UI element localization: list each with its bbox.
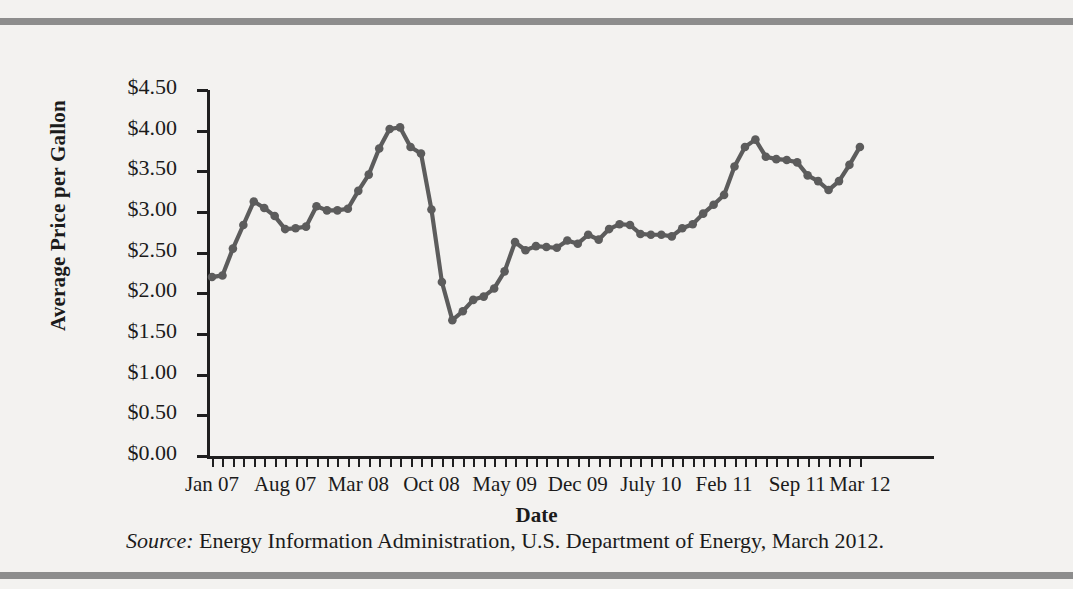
data-point-marker [312,202,321,211]
y-axis-tick-label: $0.00 [57,440,177,466]
x-axis-tick [400,456,402,467]
data-point-marker [427,205,436,214]
data-point-marker [218,271,227,280]
x-axis-tick [682,456,684,467]
chart-figure: Average Price per Gallon $0.00$0.50$1.00… [0,28,1073,528]
data-point-marker [521,246,530,255]
x-axis-tick [557,456,559,467]
x-axis-tick [588,456,590,467]
y-axis-tick-label: $2.00 [57,277,177,303]
data-point-marker [302,222,311,231]
data-point-marker [856,143,865,152]
x-axis-tick [285,456,287,467]
x-axis-tick [317,456,319,467]
data-point-marker [459,307,468,316]
x-axis-tick-label: Mar 08 [328,472,389,497]
x-axis-tick-label: Oct 08 [403,472,460,497]
source-label: Source: [126,528,194,553]
data-point-marker [668,232,677,241]
x-axis-tick [714,456,716,467]
x-axis-tick [358,456,360,467]
x-axis-tick [829,456,831,467]
data-point-marker [333,206,342,215]
data-point-marker [615,220,624,229]
data-point-marker [814,177,823,186]
x-axis-tick [724,456,726,467]
x-axis-tick [275,456,277,467]
x-axis-tick [264,456,266,467]
figure-page: Average Price per Gallon $0.00$0.50$1.00… [0,0,1073,589]
x-axis-tick-label: July 10 [620,472,681,497]
data-point-marker [636,230,645,239]
x-axis-tick [755,456,757,467]
data-point-marker [291,224,300,233]
data-point-marker [626,221,635,230]
data-point-marker [824,186,833,195]
x-axis-tick-label: May 09 [472,472,537,497]
y-axis-tick [197,89,208,92]
data-point-marker [417,149,426,158]
y-axis-tick-label: $3.50 [57,155,177,181]
data-point-marker [364,170,373,179]
data-point-marker [229,244,238,253]
x-axis-tick [745,456,747,467]
x-axis-tick [369,456,371,467]
x-axis-tick [515,456,517,467]
x-axis-tick [776,456,778,467]
y-axis-tick [197,211,208,214]
y-axis-tick-label: $4.00 [57,115,177,141]
data-point-marker [385,125,394,134]
x-axis-tick [849,456,851,467]
data-point-marker [699,209,708,218]
x-axis-tick [609,456,611,467]
x-axis-tick [567,456,569,467]
x-axis-tick [651,456,653,467]
x-axis-tick [494,456,496,467]
y-axis-tick-label: $1.00 [57,359,177,385]
data-point-marker [281,225,290,234]
x-axis-tick [431,456,433,467]
data-point-marker [647,230,656,239]
x-axis-tick [473,456,475,467]
data-point-marker [542,243,551,252]
data-point-marker [323,206,332,215]
x-axis-tick [640,456,642,467]
bottom-divider-rule [0,572,1073,579]
x-axis-tick [337,456,339,467]
data-point-marker [511,238,520,247]
x-axis-tick [390,456,392,467]
data-point-marker [553,243,562,252]
data-point-marker [396,123,405,132]
x-axis-tick [442,456,444,467]
data-point-marker [835,177,844,186]
data-point-marker [772,155,781,164]
x-axis-tick-label: Feb 11 [696,472,753,497]
x-axis-tick [463,456,465,467]
data-point-marker [448,316,457,325]
data-point-marker [469,296,478,305]
x-axis-tick [306,456,308,467]
data-point-marker [438,278,447,287]
x-axis-tick [421,456,423,467]
data-point-marker [793,158,802,167]
x-axis-tick [797,456,799,467]
data-point-marker [490,284,499,293]
x-axis-tick [735,456,737,467]
data-point-marker [406,143,415,152]
x-axis-tick [787,456,789,467]
x-axis-tick [233,456,235,467]
y-axis-tick [197,292,208,295]
x-axis-tick [839,456,841,467]
data-point-marker [720,191,729,200]
y-axis-tick [197,170,208,173]
plot-area: $0.00$0.50$1.00$1.50$2.00$2.50$3.00$3.50… [207,90,933,458]
x-axis-tick [546,456,548,467]
y-axis-tick [197,414,208,417]
data-point-marker [605,225,614,234]
x-axis-tick [243,456,245,467]
data-point-marker [741,143,750,152]
x-axis-tick [620,456,622,467]
x-axis-tick [411,456,413,467]
y-axis-tick [197,333,208,336]
x-axis-tick-label: Jan 07 [185,472,239,497]
